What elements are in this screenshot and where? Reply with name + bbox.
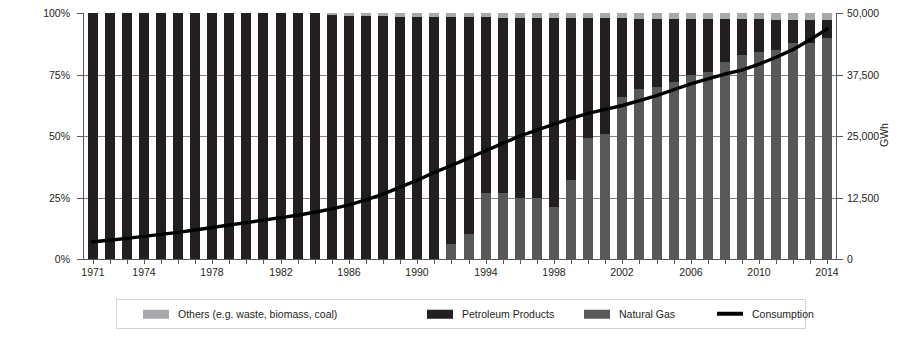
bar-segment <box>224 13 234 260</box>
bar <box>788 13 798 259</box>
bar-segment <box>805 13 815 21</box>
x-axis-tick <box>195 259 196 264</box>
bar-segment <box>686 74 696 259</box>
bar-segment <box>361 16 371 259</box>
bar <box>293 13 303 259</box>
x-axis-tick <box>759 259 760 264</box>
x-axis-tick <box>725 259 726 264</box>
bar-segment <box>617 13 627 19</box>
bar <box>617 13 627 259</box>
plot-area: 100%75%50%25%0% 50,00037,50025,00012,500… <box>0 0 921 270</box>
bar-segment <box>703 13 713 20</box>
x-axis-tick <box>451 259 452 264</box>
bar-segment <box>669 13 679 19</box>
bar-segment <box>498 17 508 192</box>
bar-segment <box>600 133 610 259</box>
bar <box>258 13 268 259</box>
bar-segment <box>327 13 337 16</box>
legend-color-swatch <box>143 310 169 319</box>
bar <box>344 13 354 259</box>
bar <box>703 13 713 259</box>
y-axis-left-label: 25% <box>24 193 70 204</box>
bar-segment <box>669 81 679 259</box>
y-axis-right-tick <box>837 259 843 260</box>
bar <box>805 13 815 259</box>
legend-item[interactable]: Others (e.g. waste, biomass, coal) <box>143 309 337 320</box>
y-axis-right-label: 0 <box>847 254 903 265</box>
bar-segment <box>583 13 593 19</box>
bar-segment <box>532 197 542 259</box>
bar <box>498 13 508 259</box>
bar <box>515 13 525 259</box>
legend-item[interactable]: Consumption <box>717 309 814 320</box>
bar <box>481 13 491 259</box>
x-axis-tick <box>246 259 247 264</box>
bar-segment <box>566 18 576 181</box>
x-axis-tick <box>537 259 538 264</box>
bar <box>207 13 217 259</box>
bar-segment <box>703 19 713 72</box>
bar <box>156 13 166 259</box>
bar-segment <box>566 13 576 19</box>
bar-segment <box>515 197 525 259</box>
x-axis-tick <box>400 259 401 264</box>
x-axis-label: 1974 <box>132 266 155 278</box>
legend-items: Others (e.g. waste, biomass, coal)Petrol… <box>117 300 805 328</box>
bar <box>737 13 747 259</box>
bar <box>276 13 286 259</box>
bar-segment <box>105 13 115 260</box>
bar <box>464 13 474 259</box>
bar-segment <box>669 18 679 81</box>
bar <box>327 13 337 259</box>
bar <box>241 13 251 259</box>
x-axis-tick <box>742 259 743 264</box>
bar-segment <box>464 13 474 18</box>
bar-segment <box>600 13 610 19</box>
y-axis-left-label: 100% <box>24 8 70 19</box>
bar-segment <box>754 19 764 52</box>
bar-segment <box>771 13 781 20</box>
bar <box>412 13 422 259</box>
y-axis-left-tick <box>77 75 83 76</box>
bar-segment <box>771 49 781 259</box>
bar-segment <box>720 13 730 20</box>
x-axis-tick <box>571 259 572 264</box>
x-axis-tick <box>776 259 777 264</box>
bar-segment <box>703 72 713 259</box>
bar-segment <box>446 17 456 245</box>
x-axis-label: 1982 <box>269 266 292 278</box>
bar-segment <box>498 13 508 18</box>
chart-figure: 100%75%50%25%0% 50,00037,50025,00012,500… <box>0 0 921 345</box>
x-axis-tick <box>161 259 162 264</box>
x-axis-tick <box>110 259 111 264</box>
x-axis-tick <box>434 259 435 264</box>
bar <box>532 13 542 259</box>
y-axis-left-label: 0% <box>24 254 70 265</box>
x-axis-label: 2014 <box>815 266 838 278</box>
bar-segment <box>754 13 764 20</box>
bar-segment <box>634 89 644 259</box>
x-axis-tick <box>263 259 264 264</box>
bar-segment <box>583 18 593 139</box>
bar-segment <box>737 54 747 259</box>
bar-segment <box>276 13 286 260</box>
bar <box>378 13 388 259</box>
x-axis-label: 2010 <box>747 266 770 278</box>
x-axis-label: 1990 <box>405 266 428 278</box>
bar-segment <box>344 13 354 16</box>
bar-segment <box>481 13 491 18</box>
bar <box>105 13 115 259</box>
bar-segment <box>412 16 422 259</box>
bar-segment <box>190 13 200 260</box>
legend-item[interactable]: Petroleum Products <box>427 309 554 320</box>
bar-segment <box>258 13 268 260</box>
bar-segment <box>822 20 832 38</box>
bar-segment <box>720 19 730 62</box>
bar <box>634 13 644 259</box>
bar <box>566 13 576 259</box>
bar <box>686 13 696 259</box>
legend-item[interactable]: Natural Gas <box>584 309 675 320</box>
bar-segment <box>617 96 627 259</box>
bar-segment <box>327 15 337 259</box>
bar-segment <box>634 13 644 19</box>
